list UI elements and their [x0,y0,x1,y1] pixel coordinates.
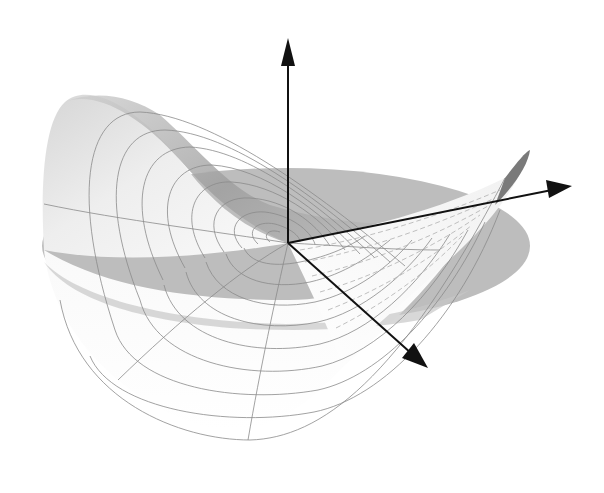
diagram-canvas [0,0,604,493]
saddle-right-wing-edge [495,150,530,205]
z-axis-arrowhead-icon [281,38,295,66]
x-axis-arrowhead-icon [546,180,572,198]
y-axis-arrowhead-icon [402,343,428,368]
saddle-diagram [0,0,604,493]
